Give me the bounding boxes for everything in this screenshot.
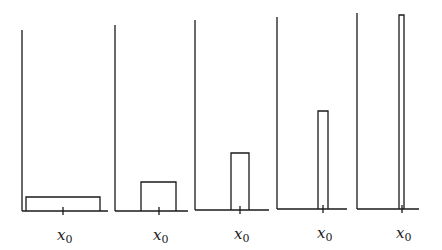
panel-5: x0 [357,13,419,244]
x0-label: x0 [57,226,72,246]
pulse-rect [399,15,404,209]
pulse-rect [318,111,328,209]
pulse-sequence-diagram: x0x0x0x0x0 [0,0,442,250]
panel-2: x0 [115,25,188,246]
x0-label: x0 [396,224,411,244]
x0-label: x0 [153,226,168,246]
panel-3: x0 [195,20,269,245]
panel-1: x0 [22,30,108,246]
x0-label: x0 [317,224,332,244]
pulse-rect [231,153,249,210]
panel-4: x0 [277,17,347,244]
x0-label: x0 [234,225,249,245]
pulse-rect [141,182,176,211]
